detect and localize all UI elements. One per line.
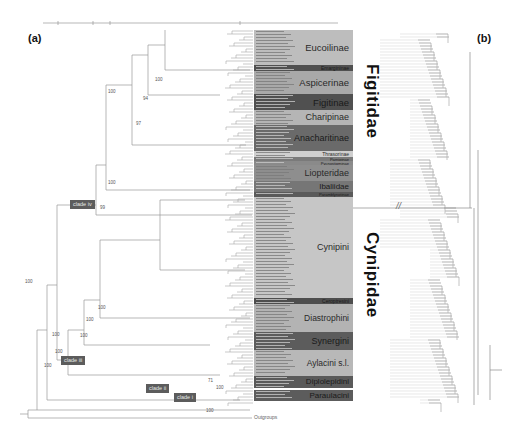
clade-band-label: Eucoilinae: [305, 42, 349, 53]
taxon-name: [256, 249, 295, 250]
taxon-name: [256, 339, 295, 340]
taxon-name: [256, 155, 285, 156]
support-value: 99: [100, 205, 105, 210]
clade-tag-iv: clade iv: [70, 200, 95, 209]
taxon-name: [256, 182, 290, 183]
taxon-name: [256, 144, 293, 145]
taxon-name: [256, 55, 292, 56]
taxon-name: [256, 204, 286, 205]
taxon-name: [256, 210, 288, 211]
clade-band: Paraulacini: [254, 390, 353, 401]
taxon-name: [256, 311, 292, 312]
taxon-name: [256, 291, 285, 292]
taxon-name: [256, 178, 291, 179]
taxon-name: [256, 95, 293, 96]
taxon-name: [256, 185, 285, 186]
taxon-name: [256, 383, 289, 384]
taxon-name: [256, 117, 286, 118]
taxon-name: [256, 222, 292, 223]
clade-band: Charipinae: [254, 110, 353, 125]
taxon-name: [256, 351, 284, 352]
taxon-name: [256, 345, 285, 346]
taxon-name: [256, 299, 287, 300]
taxon-name: [256, 372, 285, 373]
taxon-name: [256, 40, 293, 41]
support-value: 94: [143, 96, 148, 101]
taxon-name: [256, 397, 292, 398]
clade-band-label: Charipinae: [305, 112, 349, 122]
taxon-name: [256, 308, 285, 309]
taxon-name: [256, 135, 284, 136]
taxon-name: [256, 294, 292, 295]
taxon-name: [256, 75, 285, 76]
taxon-name: [256, 326, 291, 327]
taxon-name: [256, 37, 286, 38]
taxon-name: [256, 52, 285, 53]
taxon-name: [256, 172, 289, 173]
taxon-name: [256, 273, 291, 274]
taxon-name: [256, 394, 285, 395]
taxon-name: [256, 84, 294, 85]
taxon-name: [256, 66, 287, 67]
taxon-name: [256, 237, 291, 238]
taxon-name: [256, 147, 288, 148]
taxon-name: [256, 285, 295, 286]
clade-band-label: Diplolepidini: [306, 377, 349, 386]
clade-band: Liopteridae: [254, 165, 353, 181]
taxon-name: [256, 132, 289, 133]
support-value: 71: [208, 378, 213, 383]
support-value: 100: [55, 349, 63, 354]
taxon-name: [256, 152, 290, 153]
taxon-name: [256, 369, 290, 370]
clade-band-label: Aspicerinae: [299, 77, 349, 88]
taxon-name: [256, 123, 288, 124]
clade-band: Diastrophini: [254, 304, 353, 332]
taxon-name: [256, 231, 289, 232]
support-value: 100: [108, 180, 116, 185]
taxon-name: [256, 354, 291, 355]
taxon-name: [256, 114, 291, 115]
support-value: 100: [52, 332, 60, 337]
clade-band: Aylacini s.l.: [254, 350, 353, 376]
clade-band-label: Anacharitinae: [294, 133, 349, 143]
taxon-name: [256, 357, 286, 358]
taxon-name: [256, 363, 288, 364]
taxon-name: [256, 243, 293, 244]
clade-band: Synergini: [254, 332, 353, 350]
taxon-name: [256, 329, 286, 330]
taxon-name: [256, 276, 286, 277]
taxon-name: [256, 120, 293, 121]
taxon-name: [256, 386, 284, 387]
taxon-name: [256, 282, 288, 283]
taxon-name: [256, 126, 287, 127]
taxon-name: [256, 111, 284, 112]
taxon-name: [256, 198, 284, 199]
taxon-name: [256, 46, 295, 47]
taxon-name: [256, 138, 291, 139]
taxon-name: [256, 87, 289, 88]
taxon-name: [256, 323, 284, 324]
taxon-name: [256, 31, 284, 32]
taxon-name: [256, 258, 292, 259]
taxon-name: [256, 78, 292, 79]
taxon-name: [256, 201, 291, 202]
taxon-name: [256, 104, 290, 105]
taxon-name: [256, 225, 287, 226]
taxon-name: [256, 348, 292, 349]
taxon-name: [256, 166, 287, 167]
taxon-name: [256, 193, 293, 194]
break-mark: //: [396, 201, 401, 211]
clade-tag-ii: clade ii: [146, 384, 169, 393]
taxon-name: [256, 49, 290, 50]
clade-band-label: Paraulacini: [309, 391, 349, 400]
taxon-name: [256, 228, 294, 229]
taxon-name: [256, 240, 286, 241]
taxon-name: [256, 255, 285, 256]
taxon-name: [256, 261, 287, 262]
support-value: 100: [86, 317, 94, 322]
outgroup-label: Outgroups: [254, 414, 277, 420]
clade-band-label: Aylacini s.l.: [307, 358, 349, 368]
support-value: 100: [206, 408, 214, 413]
taxon-name: [256, 314, 287, 315]
clade-band: Cynipini: [254, 197, 353, 298]
